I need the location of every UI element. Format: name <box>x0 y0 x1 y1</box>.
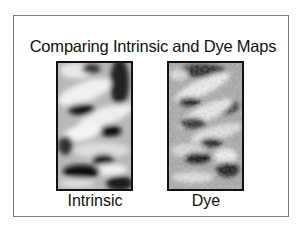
dye-map-image <box>167 61 244 191</box>
intrinsic-map-image <box>56 61 133 191</box>
dye-label: Dye <box>151 192 261 210</box>
slide-title: Comparing Intrinsic and Dye Maps <box>0 37 306 56</box>
intrinsic-label: Intrinsic <box>40 192 150 210</box>
